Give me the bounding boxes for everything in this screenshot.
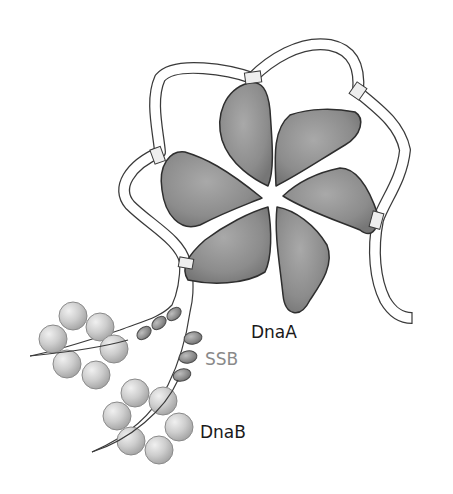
dnab-ring-lower — [103, 379, 193, 464]
dnab-subunit — [39, 325, 67, 353]
dnaa-subunit-4 — [276, 207, 329, 313]
dnab-subunit — [117, 427, 145, 455]
dnaa-subunit-1 — [220, 82, 273, 186]
dnab-subunit — [103, 402, 131, 430]
ssb-protein — [164, 305, 183, 324]
ssb-protein — [149, 314, 168, 333]
dnab-subunit — [82, 361, 110, 389]
label-dnaa: DnaA — [251, 324, 297, 341]
label-dnab: DnaB — [200, 424, 246, 441]
label-ssb: SSB — [205, 351, 238, 368]
dnab-subunit — [165, 413, 193, 441]
dnab-subunit — [145, 436, 173, 464]
dnab-subunit — [121, 379, 149, 407]
diagram-canvas: DnaA SSB DnaB — [0, 0, 453, 494]
ssb-protein — [134, 324, 153, 343]
dnab-subunit — [100, 335, 128, 363]
dnab-ring-upper — [39, 302, 128, 389]
dnab-subunit — [53, 350, 81, 378]
ssb-lower — [172, 331, 203, 384]
dnaa-oligomer — [161, 82, 378, 312]
ssb-upper — [134, 305, 183, 343]
dnab-subunit — [59, 302, 87, 330]
